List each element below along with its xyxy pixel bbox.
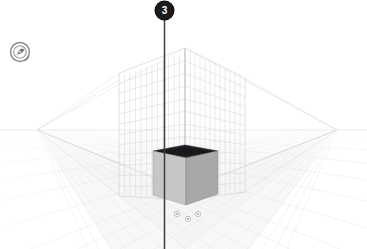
- scene-canvas[interactable]: [0, 0, 367, 249]
- 3d-perspective-viewport[interactable]: 3: [0, 0, 367, 249]
- orbit-compass-icon[interactable]: [9, 41, 31, 63]
- numbered-pin-marker[interactable]: 3: [155, 1, 174, 20]
- orbit-compass-glyph: [9, 41, 31, 63]
- grip-handle-dot[interactable]: [174, 211, 179, 216]
- solid-cube[interactable]: [153, 145, 218, 205]
- grip-handle-dot[interactable]: [185, 216, 190, 221]
- grip-handle-dot[interactable]: [195, 211, 200, 216]
